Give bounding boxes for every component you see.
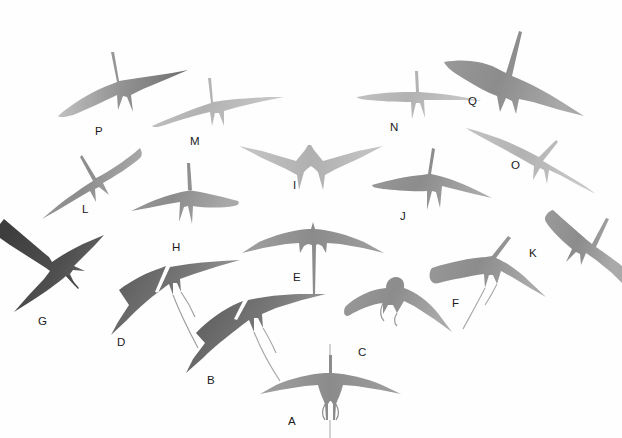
figure-plate: A B C D E F G H I J K L M N O P Q Frigat… [0, 0, 622, 438]
bird-label-e: E [293, 272, 301, 284]
bird-label-b: B [207, 375, 215, 387]
bird-silhouette-e [242, 222, 384, 296]
bird-silhouette-h [131, 163, 239, 224]
bird-silhouette-c [344, 277, 452, 332]
bird-label-d: D [117, 337, 126, 349]
bird-label-i: I [293, 180, 296, 192]
bird-silhouette-p [58, 52, 188, 117]
bird-label-j: J [400, 211, 406, 223]
bird-silhouette-q [444, 31, 584, 116]
bird-silhouette-o [466, 128, 596, 194]
bird-label-c: C [358, 347, 367, 359]
bird-label-n: N [390, 122, 399, 134]
bird-silhouette-a [260, 344, 401, 438]
bird-silhouette-g [0, 219, 104, 312]
bird-label-k: K [529, 248, 537, 260]
bird-silhouette-b [186, 294, 326, 381]
bird-label-o: O [511, 160, 520, 172]
bird-label-h: H [172, 242, 181, 254]
bird-silhouette-l [42, 148, 142, 219]
bird-label-a: A [288, 416, 296, 428]
bird-label-m: M [190, 136, 200, 148]
bird-silhouette-i [239, 145, 383, 190]
bird-silhouette-k [545, 210, 622, 283]
bird-label-l: L [82, 204, 89, 216]
bird-silhouette-j [372, 148, 492, 210]
silhouette-canvas [0, 0, 622, 438]
bird-label-q: Q [468, 96, 477, 108]
bird-label-f: F [452, 298, 459, 310]
bird-label-p: P [95, 126, 103, 138]
bird-label-g: G [38, 316, 47, 328]
bird-silhouette-m [152, 78, 284, 127]
